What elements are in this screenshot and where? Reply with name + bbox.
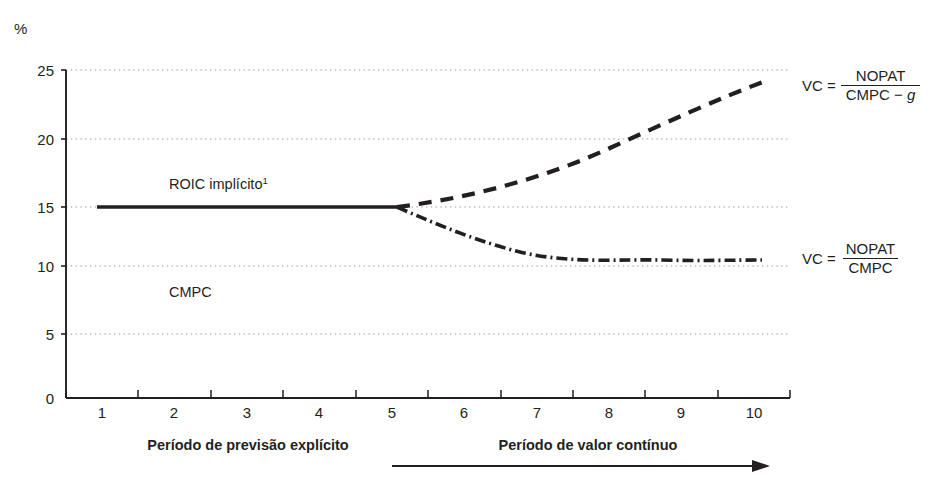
period-label-explicit: Período de previsão explícito — [147, 437, 349, 453]
series-label-cmpc: CMPC — [169, 284, 212, 300]
formula-vc-growth: VC = NOPAT CMPC − g — [802, 68, 920, 103]
formula-growth-denominator-b: g — [907, 86, 915, 103]
x-tick-label-8: 8 — [605, 404, 613, 421]
series-vc-growth-dashed — [397, 82, 763, 207]
formula-nogrowth-denominator: CMPC — [843, 258, 897, 276]
x-tick-label-1: 1 — [98, 404, 106, 421]
x-tick-label-2: 2 — [170, 404, 178, 421]
x-tick-marks — [66, 390, 790, 398]
x-tick-label-7: 7 — [533, 404, 541, 421]
series-label-roic-text: ROIC implícito — [169, 176, 262, 192]
series-label-roic-footnote: 1 — [262, 175, 267, 186]
series-label-roic: ROIC implícito1 — [169, 175, 268, 193]
y-tick-label-15: 15 — [37, 199, 54, 216]
x-tick-label-6: 6 — [460, 404, 468, 421]
x-tick-labels: 1 2 3 4 5 6 7 8 9 10 — [98, 404, 763, 421]
figure-container: % 25 20 15 10 5 0 — [0, 0, 933, 488]
formula-growth-lhs: VC = — [802, 77, 836, 95]
y-tick-label-0: 0 — [46, 390, 54, 407]
axes — [66, 70, 790, 398]
x-tick-label-10: 10 — [746, 404, 763, 421]
chart-plot: 25 20 15 10 5 0 1 2 3 4 5 — [0, 0, 933, 488]
formula-growth-numerator: NOPAT — [851, 68, 910, 85]
continuing-period-arrow — [392, 460, 770, 472]
formula-nogrowth-numerator: NOPAT — [841, 241, 900, 258]
x-tick-label-9: 9 — [677, 404, 685, 421]
x-tick-label-5: 5 — [388, 404, 396, 421]
formula-growth-denominator: CMPC − g — [841, 85, 921, 103]
y-tick-label-10: 10 — [37, 258, 54, 275]
arrow-head — [752, 460, 770, 472]
x-tick-label-3: 3 — [243, 404, 251, 421]
y-tick-labels: 25 20 15 10 5 0 — [37, 62, 54, 407]
x-tick-label-4: 4 — [315, 404, 323, 421]
formula-growth-denominator-a: CMPC − — [846, 86, 903, 103]
y-tick-label-20: 20 — [37, 131, 54, 148]
y-tick-label-25: 25 — [37, 62, 54, 79]
y-tick-label-5: 5 — [46, 326, 54, 343]
series-vc-nogrowth-dashdot — [397, 207, 762, 260]
period-label-continuing: Período de valor contínuo — [499, 437, 678, 453]
formula-vc-nogrowth: VC = NOPAT CMPC — [802, 241, 900, 276]
formula-growth-fraction: NOPAT CMPC − g — [841, 68, 921, 103]
formula-nogrowth-lhs: VC = — [802, 250, 836, 268]
formula-nogrowth-fraction: NOPAT CMPC — [841, 241, 900, 276]
